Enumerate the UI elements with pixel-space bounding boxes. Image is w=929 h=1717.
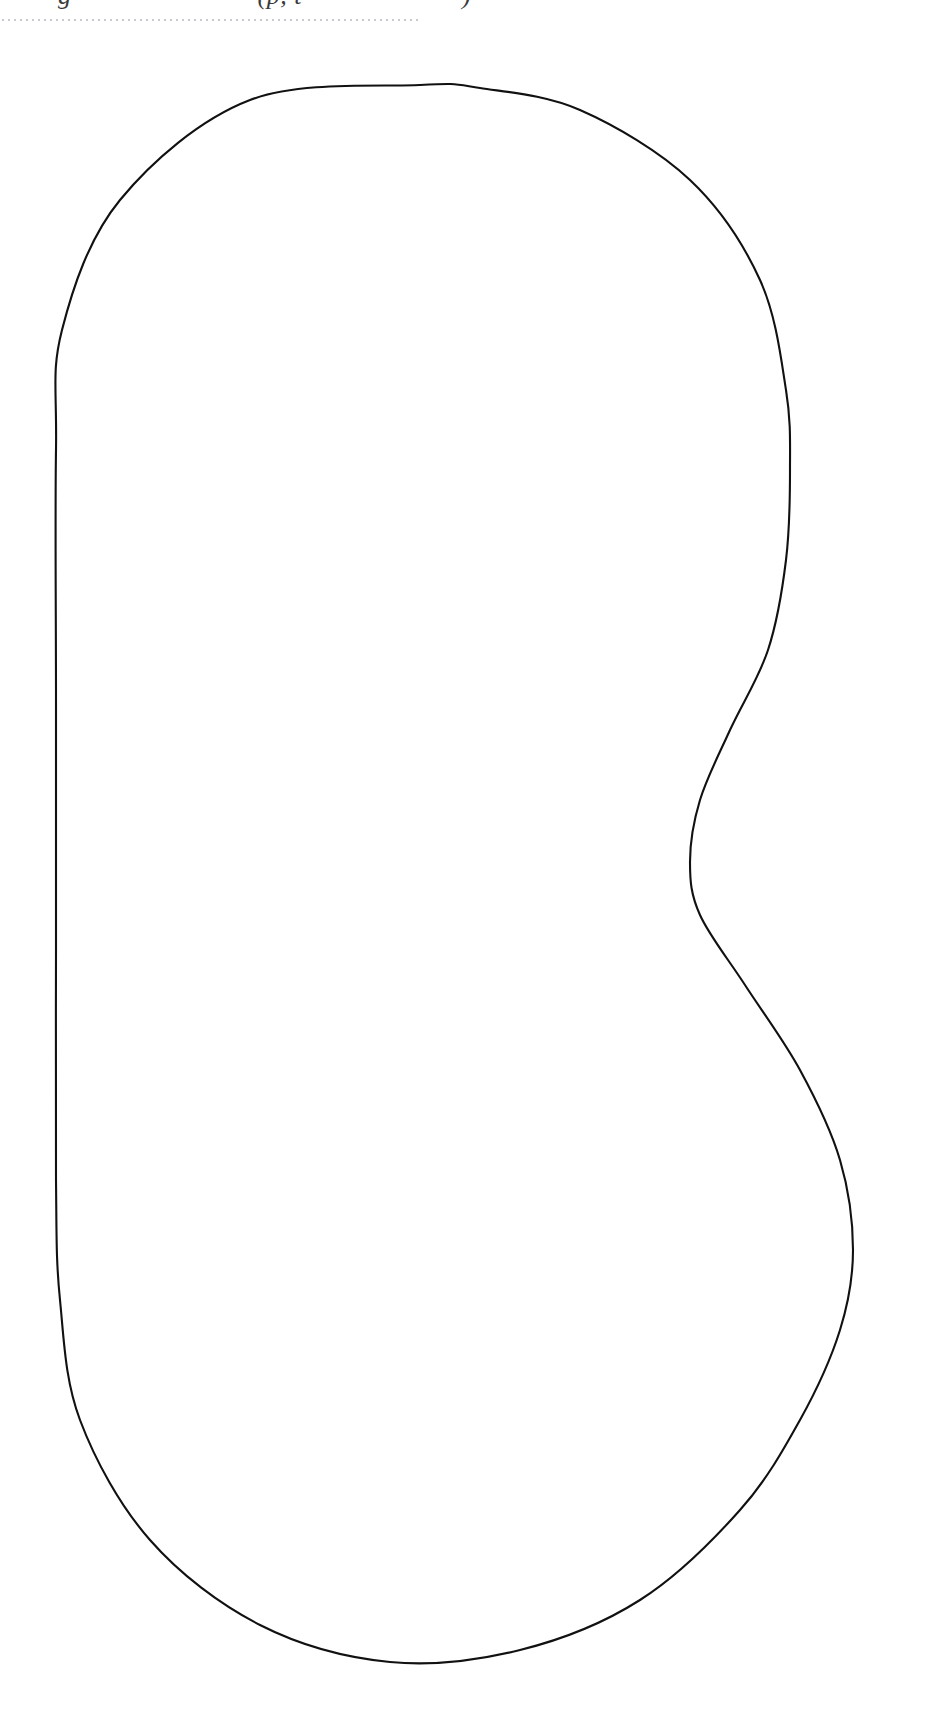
region-boundary-path	[55, 84, 853, 1663]
region-outline-svg	[0, 0, 929, 1717]
page-canvas: g(p, t)	[0, 0, 929, 1717]
region-figure	[0, 0, 929, 1717]
